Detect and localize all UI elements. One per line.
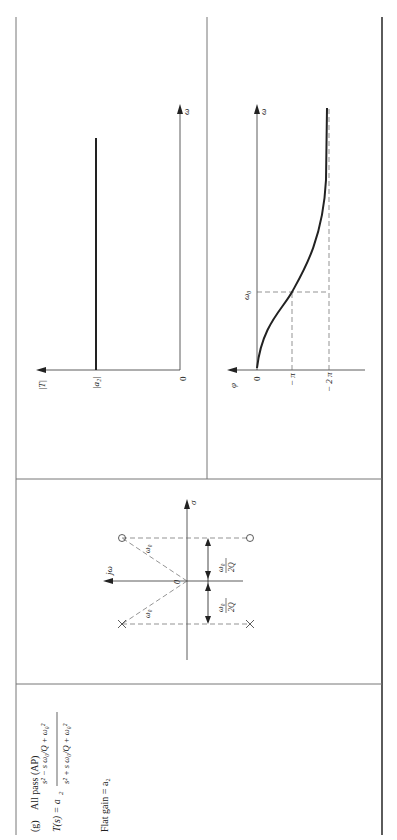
phase-plot: φ 0 − π − 2 π ω₀ ω: [227, 104, 365, 392]
magnitude-axis-arrow-icon: [36, 367, 46, 373]
magnitude-label: |T|: [37, 380, 47, 390]
svg-text:0: 0: [178, 376, 188, 381]
svg-text:− 2 π: − 2 π: [324, 372, 334, 392]
transfer-function: T(s) = a 2 s² − s ω₀/Q + ω₀² s² + s ω₀/Q…: [39, 712, 71, 832]
tf-numerator: s² − s ω₀/Q + ω₀²: [39, 723, 49, 784]
svg-text:ω: ω: [181, 109, 191, 115]
svg-text:2Q: 2Q: [227, 602, 236, 612]
svg-text:ω₀: ω₀: [216, 603, 225, 612]
svg-text:T(s) = a: T(s) = a: [51, 799, 63, 832]
svg-text:ω: ω: [258, 109, 268, 115]
a2-label: |a₂|: [91, 376, 101, 389]
flat-gain: Flat gain = a₂: [99, 778, 110, 832]
pole-zero-labels: jω σ 0 ω₀ ω₀ ω₀ 2Q ω₀ 2Q: [104, 500, 236, 618]
sigma-label: σ: [188, 500, 198, 505]
svg-text:− π: − π: [287, 373, 297, 386]
svg-text:2: 2: [57, 791, 65, 795]
svg-text:0: 0: [252, 376, 262, 381]
svg-text:ω₀: ω₀: [143, 609, 152, 618]
svg-text:ω₀: ω₀: [241, 291, 251, 300]
jw-arrow-icon: [103, 578, 113, 584]
pole-zero-plot: [103, 499, 254, 660]
svg-text:φ: φ: [228, 383, 238, 388]
jw-label: jω: [104, 566, 114, 576]
label-cell: (g) All pass (AP) T(s) = a 2 s² − s ω₀/Q…: [29, 712, 110, 832]
zero-marker-icon: [247, 535, 254, 542]
all-pass-filter-figure: (g) All pass (AP) T(s) = a 2 s² − s ω₀/Q…: [0, 0, 397, 840]
panel-label: (g): [29, 820, 41, 832]
tf-denominator: s² + s ω₀/Q + ω₀²: [61, 723, 71, 784]
svg-text:2Q: 2Q: [227, 562, 236, 572]
svg-text:ω₀: ω₀: [143, 544, 152, 553]
phi-axis-arrow-icon: [227, 367, 237, 373]
svg-text:ω₀: ω₀: [216, 563, 225, 572]
origin-label: 0: [173, 580, 182, 584]
magnitude-plot: |T| |a₂| 0 ω: [36, 104, 191, 390]
